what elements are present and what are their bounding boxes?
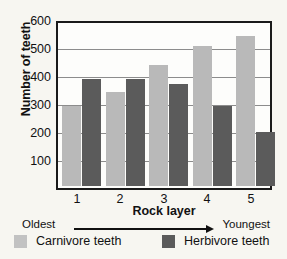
bar-herbivore-layer-4 [213, 106, 232, 187]
arrow-head [206, 225, 214, 233]
age-direction-scale: Oldest Youngest [22, 218, 270, 234]
bar-group [106, 25, 146, 186]
bar-carnivore-layer-4 [193, 46, 212, 186]
chart-legend: Carnivore teeth Herbivore teeth [14, 234, 276, 254]
bar-group [193, 25, 233, 186]
bar-group [62, 25, 102, 186]
arrow-right-icon [74, 225, 214, 234]
legend-item-herbivore: Herbivore teeth [162, 234, 269, 248]
y-tick-label: 600 [1, 14, 51, 28]
bar-carnivore-layer-5 [236, 36, 255, 186]
legend-item-carnivore: Carnivore teeth [14, 234, 121, 248]
bar-carnivore-layer-2 [106, 92, 125, 186]
legend-swatch-icon [162, 235, 175, 248]
y-tick-label: 300 [1, 98, 51, 112]
legend-swatch-icon [14, 235, 27, 248]
youngest-label: Youngest [222, 218, 270, 230]
y-tick-label: 200 [1, 126, 51, 140]
bar-herbivore-layer-5 [256, 132, 275, 186]
bar-herbivore-layer-3 [169, 84, 188, 186]
plot-area [56, 21, 272, 190]
legend-label: Herbivore teeth [184, 234, 269, 248]
bar-carnivore-layer-1 [62, 106, 81, 187]
bar-carnivore-layer-3 [149, 65, 168, 186]
y-tick-label: 400 [1, 70, 51, 84]
bar-chart-figure: Number of teeth 600 500 400 300 200 100 … [0, 0, 287, 259]
arrow-shaft [74, 228, 207, 230]
legend-label: Carnivore teeth [36, 234, 121, 248]
oldest-label: Oldest [22, 218, 55, 230]
bar-group [149, 25, 189, 186]
y-tick-label: 100 [1, 154, 51, 168]
bar-group [236, 25, 276, 186]
bar-herbivore-layer-2 [126, 79, 145, 186]
bars-layer [60, 25, 268, 186]
y-tick-label: 500 [1, 42, 51, 56]
bar-herbivore-layer-1 [82, 79, 101, 186]
x-axis-title: Rock layer [56, 204, 272, 218]
